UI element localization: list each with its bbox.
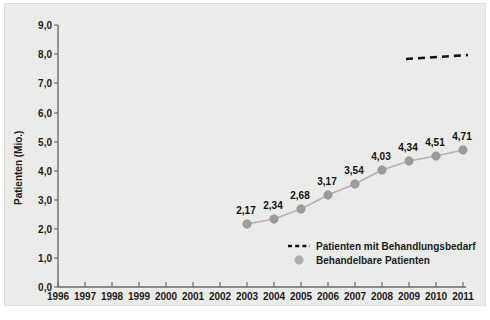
data-label-2005: 2,68 (290, 190, 310, 201)
y-tick-label-4: 4,0 (38, 166, 52, 177)
x-tick-label-2010: 2010 (425, 291, 448, 302)
data-point-2005 (297, 205, 305, 213)
legend-marker-circle (295, 256, 303, 264)
data-point-2007 (351, 180, 359, 188)
data-label-2003: 2,17 (236, 205, 256, 216)
y-tick-label-2: 2,0 (38, 224, 52, 235)
x-tick-label-2006: 2006 (317, 291, 340, 302)
y-tick-label-6: 6,0 (38, 108, 52, 119)
chart-legend: Patienten mit Behandlungsbedarf Behandel… (288, 241, 476, 266)
y-tick-label-1: 1,0 (38, 253, 52, 264)
data-label-2009: 4,34 (398, 142, 418, 153)
y-tick-label-7: 7,0 (38, 78, 52, 89)
data-point-2003 (243, 220, 251, 228)
x-tick-label-2000: 2000 (155, 291, 178, 302)
x-tick-label-1996: 1996 (47, 291, 70, 302)
chart-plot-area: Patienten (Mio.) 9,0 8,0 7,0 6,0 5,0 4,0… (0, 0, 490, 320)
figure-margin-left (0, 0, 4, 320)
series-markers-treatable-patients (243, 146, 467, 228)
y-axis-title: Patienten (Mio.) (13, 131, 24, 205)
legend-label-treatable-patients: Behandelbare Patienten (316, 255, 430, 266)
x-tick-label-2004: 2004 (263, 291, 286, 302)
x-tick-label-2001: 2001 (182, 291, 205, 302)
chart-figure: Patienten (Mio.) 9,0 8,0 7,0 6,0 5,0 4,0… (0, 0, 490, 320)
data-label-2007: 3,54 (344, 165, 364, 176)
x-tick-label-2005: 2005 (290, 291, 313, 302)
x-tick-label-1999: 1999 (128, 291, 151, 302)
legend-label-treatment-need: Patienten mit Behandlungsbedarf (316, 241, 476, 252)
data-label-2008: 4,03 (371, 151, 391, 162)
data-point-2009 (405, 157, 413, 165)
y-tick-label-9: 9,0 (38, 20, 52, 31)
y-tick-label-3: 3,0 (38, 195, 52, 206)
x-tick-label-1997: 1997 (74, 291, 97, 302)
x-tick-label-2002: 2002 (209, 291, 232, 302)
x-tick-label-2003: 2003 (236, 291, 259, 302)
x-tick-label-2007: 2007 (344, 291, 367, 302)
figure-margin-top (0, 0, 490, 3)
data-label-2006: 3,17 (317, 176, 337, 187)
data-label-2004: 2,34 (263, 200, 283, 211)
data-label-2011: 4,71 (452, 131, 472, 142)
figure-margin-right (486, 0, 490, 320)
x-tick-label-2008: 2008 (371, 291, 394, 302)
x-tick-label-2011: 2011 (452, 291, 474, 302)
y-tick-label-8: 8,0 (38, 49, 52, 60)
x-axis-ticks (58, 282, 463, 287)
data-point-2006 (324, 191, 332, 199)
figure-margin-bottom (0, 306, 490, 320)
data-label-2010: 4,51 (425, 137, 445, 148)
y-tick-label-5: 5,0 (38, 137, 52, 148)
x-tick-label-2009: 2009 (398, 291, 421, 302)
x-tick-label-1998: 1998 (101, 291, 124, 302)
data-point-2008 (378, 166, 386, 174)
series-dashed-treatment-need (406, 55, 468, 59)
data-point-2010 (432, 152, 440, 160)
data-point-2011 (459, 146, 467, 154)
data-point-2004 (270, 215, 278, 223)
